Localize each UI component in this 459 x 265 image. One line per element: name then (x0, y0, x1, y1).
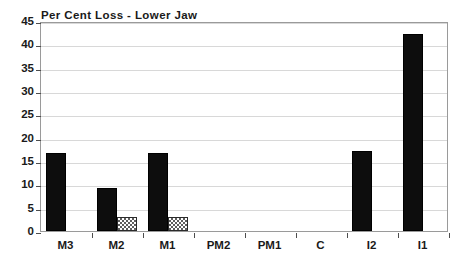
x-axis-tick-label: PM2 (207, 240, 231, 252)
x-axis-tick-label: C (316, 240, 324, 252)
y-axis-tick (36, 210, 41, 211)
x-axis-tick (398, 233, 399, 238)
gridline (41, 93, 447, 94)
plot-inner (41, 23, 447, 231)
bar-solid-m3 (46, 153, 66, 231)
y-axis-tick (36, 93, 41, 94)
gridline (41, 46, 447, 47)
chart-title: Per Cent Loss - Lower Jaw (41, 9, 197, 21)
y-axis-tick (36, 70, 41, 71)
y-axis-tick-label: 30 (6, 86, 34, 98)
y-axis-tick (36, 46, 41, 47)
x-axis-tick-label: I1 (418, 240, 428, 252)
bar-solid-i2 (352, 151, 372, 231)
x-axis-tick-label: PM1 (258, 240, 282, 252)
x-axis-tick (194, 233, 195, 238)
y-axis-tick-label: 25 (6, 109, 34, 121)
y-axis-tick-label: 10 (6, 179, 34, 191)
y-axis-tick-label: 20 (6, 133, 34, 145)
x-axis-tick (143, 233, 144, 238)
y-axis-tick-label: 15 (6, 156, 34, 168)
x-axis-tick (296, 233, 297, 238)
bar-solid-i1 (403, 34, 423, 231)
x-axis-tick (449, 233, 450, 238)
y-axis-tick-label: 5 (6, 203, 34, 215)
y-axis-tick-label: 40 (6, 39, 34, 51)
x-axis-tick (347, 233, 348, 238)
gridline (41, 70, 447, 71)
gridline (41, 23, 447, 24)
chart-figure: Per Cent Loss - Lower Jaw 05101520253035… (0, 0, 459, 265)
bar-solid-m2 (97, 188, 117, 231)
gridline (41, 116, 447, 117)
y-axis-tick-label: 0 (6, 226, 34, 238)
gridline (41, 163, 447, 164)
y-axis-tick (36, 186, 41, 187)
bar-hatched-m2 (117, 217, 137, 231)
y-axis-label-group: 051015202530354045 (0, 22, 34, 232)
y-axis-tick (36, 116, 41, 117)
x-axis-tick (245, 233, 246, 238)
bar-solid-m1 (148, 153, 168, 231)
bar-hatched-m1 (168, 217, 188, 231)
y-axis-tick (36, 140, 41, 141)
y-axis-tick (36, 23, 41, 24)
x-axis-label-group: M3M2M1PM2PM1CI2I1 (40, 240, 448, 256)
y-axis-tick (36, 233, 41, 234)
gridline (41, 140, 447, 141)
x-axis-tick-label: M1 (160, 240, 176, 252)
y-axis-tick-label: 45 (6, 16, 34, 28)
y-axis-tick-label: 35 (6, 63, 34, 75)
x-axis-tick (92, 233, 93, 238)
x-axis-tick-label: M2 (109, 240, 125, 252)
plot-area (40, 22, 448, 232)
x-axis-tick-label: I2 (367, 240, 377, 252)
y-axis-tick (36, 163, 41, 164)
x-axis-tick-label: M3 (58, 240, 74, 252)
